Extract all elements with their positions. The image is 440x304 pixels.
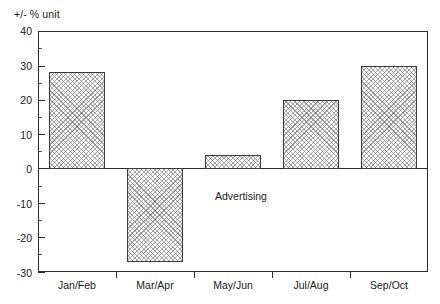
y-tick-label-10: 10	[2, 130, 32, 141]
y-tick-label-minus-20: -20	[2, 233, 32, 244]
x-category-label-may-jun: May/Jun	[194, 280, 272, 291]
y-tick-label-minus-10: -10	[2, 199, 32, 210]
bar-may-jun	[205, 155, 261, 169]
x-category-label-jan-feb: Jan/Feb	[38, 280, 116, 291]
bar-chart: +/- % unit 40 30 20 10 0 -10 -20 -30 Jan…	[0, 0, 440, 304]
x-tick-1	[116, 272, 117, 278]
x-category-label-sep-oct: Sep/Oct	[350, 280, 428, 291]
y-tick-label-0: 0	[2, 164, 32, 175]
bar-mar-apr	[127, 168, 183, 262]
x-tick-3	[272, 272, 273, 278]
x-tick-2	[194, 272, 195, 278]
series-annotation-advertising: Advertising	[215, 191, 267, 202]
y-tick-minus-30	[38, 272, 45, 273]
y-tick-label-20: 20	[2, 95, 32, 106]
x-tick-4	[350, 272, 351, 278]
x-category-label-jul-aug: Jul/Aug	[272, 280, 350, 291]
y-tick-label-40: 40	[2, 26, 32, 37]
y-tick-label-minus-30: -30	[2, 268, 32, 279]
bar-jan-feb	[49, 72, 105, 169]
bar-jul-aug	[283, 100, 339, 169]
y-tick-label-30: 30	[2, 61, 32, 72]
x-category-label-mar-apr: Mar/Apr	[116, 280, 194, 291]
y-axis-unit-label: +/- % unit	[14, 8, 60, 20]
bar-sep-oct	[361, 66, 417, 169]
